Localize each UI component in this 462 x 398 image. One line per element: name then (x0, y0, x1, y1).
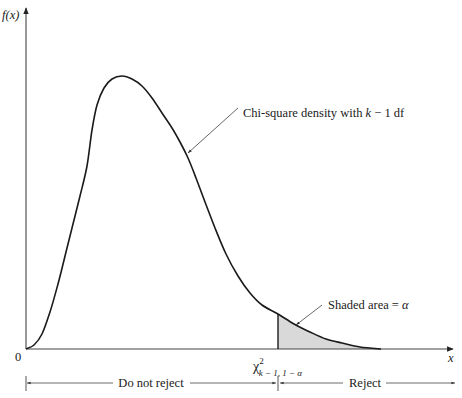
origin-label: 0 (15, 350, 21, 364)
chi-square-figure: f(x) x 0 Chi-square density with k − 1 d… (0, 0, 462, 398)
critical-value-label: χ2k − 1, 1 − α (252, 356, 302, 378)
shaded-annotation-label: Shaded area = α (328, 298, 409, 312)
shaded-annotation-arrow (296, 305, 322, 325)
density-annotation-label: Chi-square density with k − 1 df (243, 106, 405, 120)
density-annotation-arrow (188, 108, 238, 153)
y-axis-label: f(x) (2, 8, 19, 22)
reject-label: Reject (349, 376, 381, 390)
shaded-rejection-area (278, 314, 381, 349)
do-not-reject-label: Do not reject (118, 376, 184, 390)
x-axis-label: x (447, 351, 454, 365)
